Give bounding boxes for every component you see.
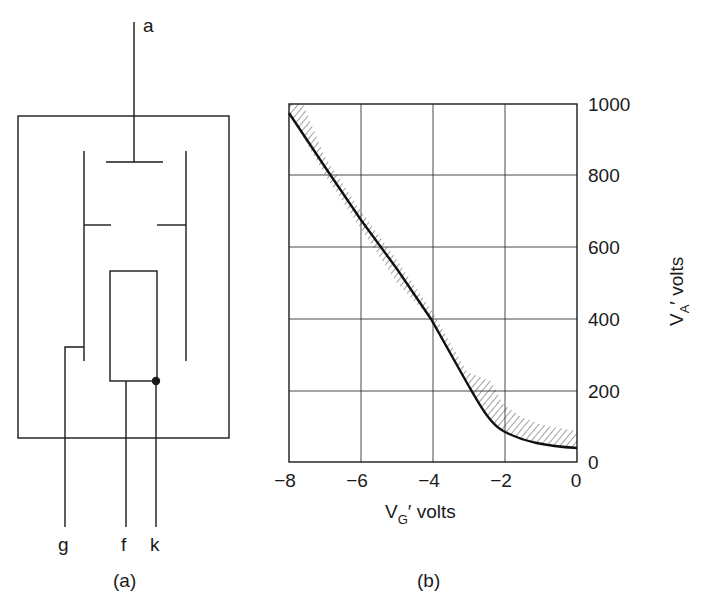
- terminal-label-a: a: [143, 15, 154, 36]
- y-tick-1000: 1000: [588, 94, 630, 115]
- terminal-label-f: f: [121, 534, 127, 555]
- triode-schematic: [18, 22, 229, 527]
- chart: [289, 104, 577, 462]
- filament: [110, 271, 157, 381]
- terminal-label-g: g: [58, 534, 69, 555]
- grid-lead: [65, 347, 84, 527]
- y-tick-600: 600: [588, 237, 620, 258]
- cathode-junction-dot: [153, 378, 160, 385]
- y-tick-200: 200: [588, 381, 620, 402]
- envelope: [18, 116, 229, 438]
- x-tick-0: 0: [571, 470, 582, 491]
- caption-b: (b): [417, 570, 440, 591]
- caption-a: (a): [113, 570, 136, 591]
- x-tick-neg6: −6: [346, 470, 368, 491]
- figure: a g f k (a) 1000 800 600 400 200 0 −8 −6: [0, 0, 706, 611]
- x-tick-neg8: −8: [274, 470, 296, 491]
- y-tick-400: 400: [588, 309, 620, 330]
- y-axis-label: VA′ volts: [666, 257, 692, 326]
- x-axis-label: VG′ volts: [385, 501, 456, 527]
- terminal-label-k: k: [150, 534, 160, 555]
- grid: [289, 104, 577, 462]
- y-tick-800: 800: [588, 165, 620, 186]
- x-tick-neg2: −2: [490, 470, 512, 491]
- x-tick-neg4: −4: [418, 470, 440, 491]
- y-tick-0: 0: [588, 452, 599, 473]
